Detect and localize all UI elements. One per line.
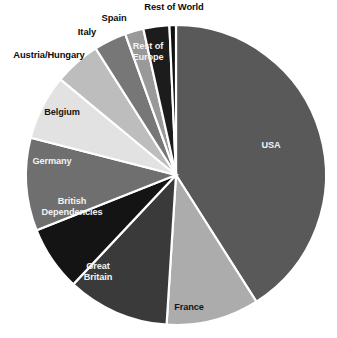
slice-label-british-dependencies: British Dependencies [28,196,116,217]
pie-chart: USA France Great Britain British Depende… [0,0,337,338]
slice-label-belgium: Belgium [32,107,92,118]
slice-label-france: France [160,302,218,313]
slice-label-rest-of-world: Rest of World [128,2,220,13]
slice-label-germany: Germany [18,156,86,167]
slice-label-great-britain: Great Britain [71,261,125,282]
slice-label-rest-of-europe: Rest of Europe [126,41,170,62]
slice-label-austria-hungary: Austria/Hungary [2,50,96,61]
slice-label-usa: USA [246,140,296,151]
slice-label-italy: Italy [70,27,104,38]
slice-label-spain: Spain [95,13,133,24]
